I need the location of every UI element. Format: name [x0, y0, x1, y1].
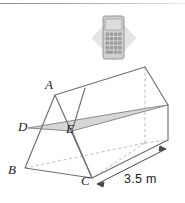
dimension-label: 3.5 m [124, 172, 157, 186]
top-ridge [55, 67, 145, 95]
vertex-label-A: A [45, 78, 53, 91]
edge-e-to-c [72, 131, 92, 178]
vertex-label-B: B [8, 163, 16, 176]
vertex-label-D: D [18, 120, 27, 133]
figure-container: A D E B C 3.5 m [0, 0, 185, 203]
back-apex-to-right [145, 67, 168, 105]
front-triangle [25, 95, 92, 178]
vertex-label-C: C [81, 174, 90, 187]
vertex-label-E: E [66, 122, 74, 135]
prism-figure [0, 0, 185, 203]
